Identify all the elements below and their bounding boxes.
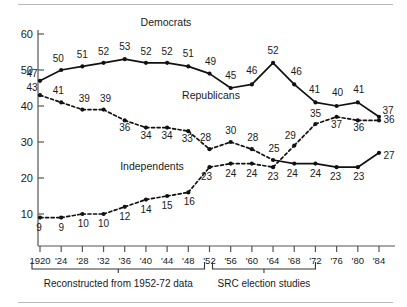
republicans-value-label: 30	[225, 125, 237, 136]
independents-value-label: 36	[383, 114, 395, 125]
x-tick-label: '32	[97, 255, 109, 266]
democrats-value-label: 47	[26, 68, 38, 79]
src-election-studies-bracket-label: SRC election studies	[218, 278, 311, 289]
republicans-value-label: 34	[140, 130, 152, 141]
data-point	[313, 122, 317, 126]
independents-value-label: 23	[268, 171, 280, 182]
data-point	[229, 162, 233, 166]
x-tick-label: '56	[224, 255, 236, 266]
reconstructed-data-bracket-label: Reconstructed from 1952-72 data	[44, 278, 193, 289]
data-point	[292, 144, 296, 148]
independents-value-label: 9	[36, 222, 42, 233]
republicans-value-label: 39	[100, 93, 112, 104]
data-point	[38, 216, 42, 220]
x-tick-label: 1920	[29, 255, 50, 266]
republicans-value-label: 24	[310, 168, 322, 179]
data-point	[207, 165, 211, 169]
data-point	[207, 72, 211, 76]
data-point	[165, 194, 169, 198]
data-point	[250, 147, 254, 151]
republicans-value-label: 33	[182, 133, 194, 144]
series-segment	[337, 102, 358, 106]
data-point	[335, 104, 339, 108]
republicans-value-label: 24	[287, 168, 299, 179]
chart-container: 6050403020101920'24'28'32'36'40'44'48'52…	[0, 0, 407, 307]
series-label-democrats: Democrats	[141, 16, 192, 28]
democrats-value-label: 41	[309, 84, 321, 95]
data-point	[59, 100, 63, 104]
y-tick-label: 30	[21, 136, 33, 148]
data-point	[271, 61, 275, 65]
democrats-value-label: 52	[140, 46, 152, 57]
republicans-value-label: 23	[330, 171, 342, 182]
x-tick-label: '36	[119, 255, 131, 266]
y-tick-label: 20	[21, 172, 33, 184]
data-point	[377, 115, 381, 119]
republicans-value-label: 39	[79, 93, 91, 104]
x-tick-label: '48	[182, 255, 194, 266]
republicans-value-label: 28	[247, 132, 259, 143]
data-point	[38, 79, 42, 83]
republicans-value-label: 36	[119, 122, 131, 133]
series-segment	[315, 102, 336, 106]
series-segment	[358, 153, 379, 167]
independents-value-label: 9	[58, 222, 64, 233]
x-tick-label: '60	[246, 255, 258, 266]
y-tick-label: 60	[21, 28, 33, 40]
independents-value-label: 10	[78, 218, 90, 229]
data-point	[250, 82, 254, 86]
democrats-value-label: 52	[268, 45, 280, 56]
democrats-value-label: 52	[162, 46, 174, 57]
series-segment	[104, 59, 125, 63]
democrats-value-label: 50	[53, 53, 65, 64]
x-tick-label: '84	[373, 255, 385, 266]
independents-value-label: 16	[184, 196, 196, 207]
data-point	[59, 68, 63, 72]
series-label-republicans: Republicans	[182, 89, 240, 101]
data-point	[229, 140, 233, 144]
data-point	[165, 61, 169, 65]
republicans-value-label: 34	[162, 130, 174, 141]
republicans-value-label: 41	[53, 85, 65, 96]
series-segment	[82, 63, 103, 67]
x-tick-label: '68	[288, 255, 300, 266]
data-point	[377, 118, 381, 122]
y-tick-label: 10	[21, 208, 33, 220]
data-point	[59, 216, 63, 220]
republicans-value-label: 25	[269, 143, 281, 154]
data-point	[80, 212, 84, 216]
republicans-value-label: 28	[200, 132, 212, 143]
democrats-value-label: 40	[332, 87, 344, 98]
series-label-independents: Independents	[120, 160, 184, 172]
independents-value-label: 36	[353, 122, 365, 133]
series-segment	[210, 142, 231, 149]
x-tick-label: '80	[352, 255, 364, 266]
data-point	[144, 61, 148, 65]
independents-value-label: 10	[98, 218, 110, 229]
series-segment	[104, 110, 125, 121]
x-tick-label: '40	[140, 255, 152, 266]
series-segment	[125, 59, 146, 63]
data-point	[271, 158, 275, 162]
data-point	[250, 162, 254, 166]
democrats-value-label: 52	[98, 46, 110, 57]
data-point	[186, 64, 190, 68]
data-point	[356, 165, 360, 169]
data-point	[271, 165, 275, 169]
x-tick-label: '44	[161, 255, 173, 266]
democrats-value-label: 53	[119, 41, 131, 52]
democrats-value-label: 49	[205, 56, 217, 67]
data-point	[101, 212, 105, 216]
data-point	[356, 100, 360, 104]
x-tick-label: '52	[203, 255, 215, 266]
series-segment	[358, 102, 379, 116]
independents-value-label: 12	[119, 211, 131, 222]
data-point	[292, 162, 296, 166]
independents-value-label: 35	[310, 108, 322, 119]
x-tick-label: '28	[76, 255, 88, 266]
independents-value-label: 29	[285, 130, 297, 141]
independents-value-label: 14	[140, 204, 152, 215]
democrats-value-label: 51	[183, 48, 195, 59]
data-point	[80, 108, 84, 112]
democrats-value-label: 46	[246, 65, 258, 76]
